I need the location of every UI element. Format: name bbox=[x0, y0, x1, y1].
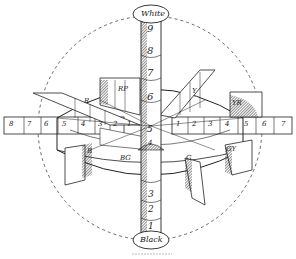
axis-number-3: 3 bbox=[148, 190, 154, 199]
black-label: Black bbox=[140, 236, 163, 244]
right-scale-4: 4 bbox=[225, 121, 229, 128]
left-scale-7: 7 bbox=[27, 121, 31, 128]
white-label: White bbox=[141, 10, 165, 18]
hue-label-rp: RP bbox=[118, 86, 128, 93]
left-scale-1: 1 bbox=[127, 121, 131, 128]
panel-g bbox=[185, 158, 205, 205]
axis-number-7: 7 bbox=[147, 68, 153, 78]
axis-number-2: 2 bbox=[148, 205, 154, 214]
left-scale-2: 2 bbox=[113, 121, 117, 128]
hue-label-gy: GY bbox=[226, 146, 236, 153]
left-scale-6: 6 bbox=[44, 121, 48, 128]
color-sphere-diagram: White Black 9 8 7 6 5 4 3 2 1 8 7 6 5 4 … bbox=[0, 0, 296, 259]
hue-label-b: B bbox=[87, 148, 92, 155]
right-scale-5: 5 bbox=[244, 121, 248, 128]
axis-number-4: 4 bbox=[148, 140, 152, 147]
left-scale-4: 4 bbox=[81, 121, 85, 128]
left-scale-5: 5 bbox=[62, 121, 66, 128]
hue-label-r: R bbox=[84, 98, 89, 105]
right-scale-2: 2 bbox=[192, 121, 196, 128]
panel-rp bbox=[100, 78, 140, 115]
left-scale-8: 8 bbox=[9, 121, 13, 128]
hue-label-bg: BG bbox=[120, 155, 131, 162]
panel-y bbox=[160, 70, 215, 118]
hue-label-yr: YR bbox=[232, 100, 242, 107]
right-scale-3: 3 bbox=[208, 121, 212, 128]
axis-number-1: 1 bbox=[148, 222, 154, 231]
right-scale-6: 6 bbox=[262, 121, 266, 128]
axis-number-9: 9 bbox=[147, 24, 153, 34]
hue-label-g: G bbox=[186, 155, 192, 162]
hue-label-y: Y bbox=[192, 88, 197, 95]
right-scale-7: 7 bbox=[281, 121, 285, 128]
axis-number-8: 8 bbox=[147, 46, 153, 56]
axis-number-5: 5 bbox=[147, 125, 153, 134]
axis-number-6: 6 bbox=[147, 92, 153, 102]
left-scale-3: 3 bbox=[98, 121, 102, 128]
right-scale-bar bbox=[172, 117, 292, 134]
right-scale-1: 1 bbox=[176, 121, 180, 128]
